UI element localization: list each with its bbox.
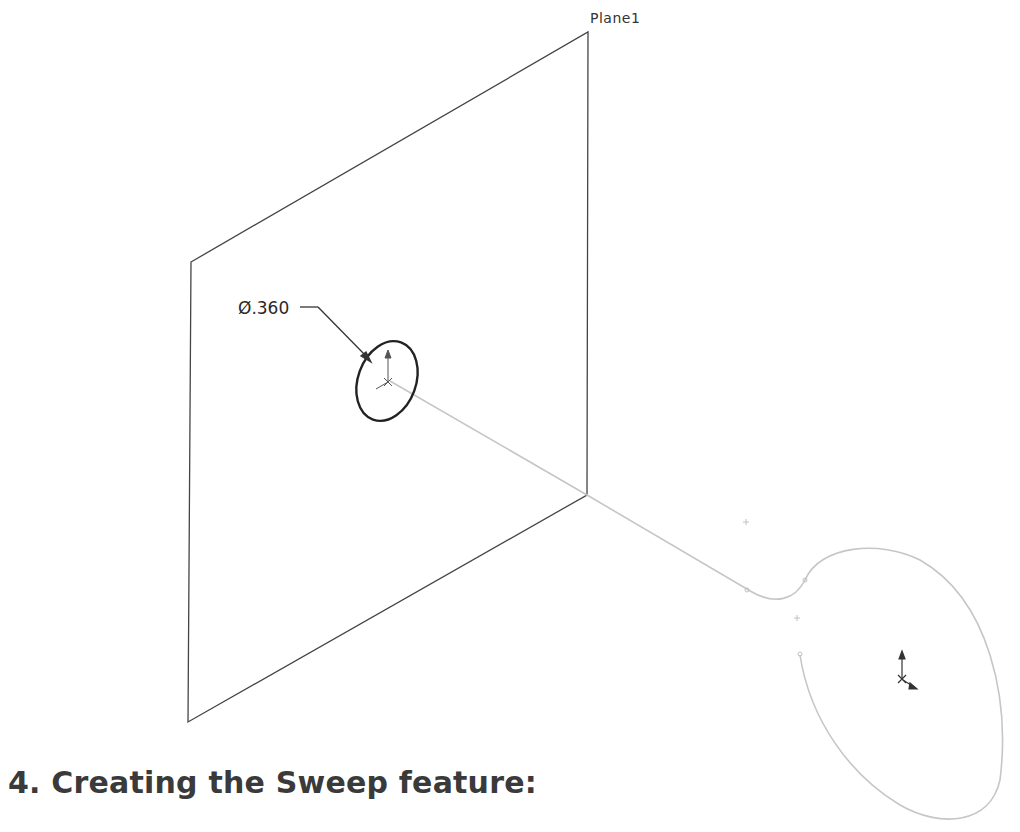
diameter-dimension-label[interactable]: Ø.360 — [238, 298, 289, 318]
origin-triad-icon — [376, 350, 392, 389]
cad-viewport — [0, 0, 1020, 832]
end-origin-triad-icon — [898, 651, 917, 689]
section-heading: 4. Creating the Sweep feature: — [8, 765, 537, 800]
plane1-label: Plane1 — [590, 10, 640, 26]
path-point-markers — [743, 519, 807, 656]
sweep-path-curve[interactable] — [390, 381, 1002, 819]
dimension-leader — [300, 307, 371, 362]
